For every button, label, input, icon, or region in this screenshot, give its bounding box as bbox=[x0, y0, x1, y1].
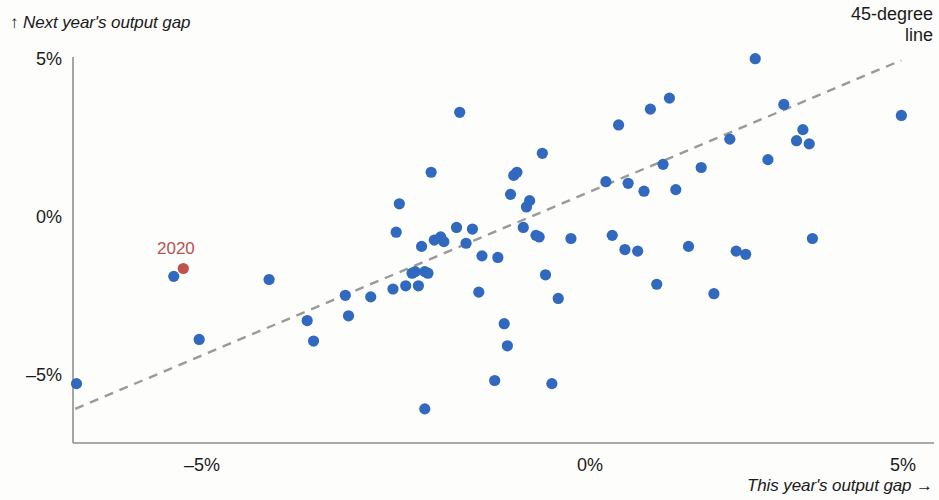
data-point bbox=[419, 403, 430, 414]
data-point bbox=[467, 223, 478, 234]
data-point bbox=[623, 178, 634, 189]
data-point bbox=[619, 244, 630, 255]
data-point bbox=[613, 119, 624, 130]
data-point bbox=[731, 246, 742, 257]
data-point bbox=[502, 340, 513, 351]
data-point bbox=[492, 252, 503, 263]
data-point bbox=[537, 148, 548, 159]
data-point bbox=[438, 236, 449, 247]
data-point bbox=[565, 233, 576, 244]
data-point bbox=[451, 222, 462, 233]
data-point bbox=[651, 279, 662, 290]
axis-lines bbox=[73, 57, 934, 443]
data-point bbox=[413, 280, 424, 291]
data-point bbox=[540, 269, 551, 280]
chart-page: ↑ Next year's output gap This year's out… bbox=[0, 0, 939, 500]
data-point bbox=[476, 250, 487, 261]
data-point bbox=[391, 227, 402, 238]
data-point bbox=[410, 266, 421, 277]
data-point bbox=[524, 195, 535, 206]
data-point bbox=[632, 246, 643, 257]
data-point bbox=[168, 271, 179, 282]
data-point bbox=[343, 310, 354, 321]
data-point bbox=[71, 378, 82, 389]
data-point bbox=[499, 318, 510, 329]
data-point bbox=[664, 93, 675, 104]
data-point bbox=[400, 280, 411, 291]
data-point bbox=[657, 159, 668, 170]
data-point bbox=[518, 222, 529, 233]
data-point bbox=[791, 135, 802, 146]
data-point bbox=[645, 104, 656, 115]
data-point bbox=[426, 167, 437, 178]
data-point bbox=[489, 375, 500, 386]
data-point bbox=[387, 283, 398, 294]
data-point bbox=[340, 290, 351, 301]
data-series bbox=[178, 263, 189, 274]
data-point bbox=[896, 110, 907, 121]
data-point bbox=[696, 162, 707, 173]
data-point bbox=[750, 53, 761, 64]
data-point bbox=[473, 287, 484, 298]
data-point bbox=[302, 315, 313, 326]
data-point bbox=[178, 263, 189, 274]
data-point bbox=[797, 124, 808, 135]
data-point bbox=[553, 293, 564, 304]
data-point bbox=[454, 107, 465, 118]
data-point bbox=[505, 189, 516, 200]
data-point bbox=[708, 288, 719, 299]
data-point bbox=[546, 378, 557, 389]
forty-five-degree-line bbox=[75, 60, 901, 409]
data-point bbox=[670, 184, 681, 195]
scatter-plot bbox=[0, 0, 939, 500]
data-point bbox=[724, 134, 735, 145]
data-point bbox=[416, 241, 427, 252]
data-point bbox=[740, 249, 751, 260]
data-point bbox=[511, 167, 522, 178]
data-point bbox=[762, 154, 773, 165]
data-point bbox=[638, 186, 649, 197]
data-point bbox=[194, 334, 205, 345]
data-point bbox=[778, 99, 789, 110]
data-point bbox=[534, 231, 545, 242]
data-point bbox=[683, 241, 694, 252]
data-point bbox=[460, 238, 471, 249]
data-point bbox=[422, 268, 433, 279]
data-point bbox=[807, 233, 818, 244]
data-point bbox=[308, 335, 319, 346]
data-point bbox=[394, 198, 405, 209]
data-point bbox=[607, 230, 618, 241]
data-point bbox=[804, 138, 815, 149]
data-point bbox=[365, 291, 376, 302]
data-point bbox=[263, 274, 274, 285]
data-point bbox=[600, 176, 611, 187]
